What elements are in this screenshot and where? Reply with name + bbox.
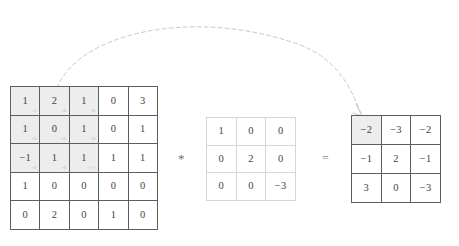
- cell-value: 2: [393, 154, 398, 165]
- output-cell: −1: [352, 145, 382, 174]
- cell-multiplier: ×0: [61, 166, 65, 170]
- cell-value: 1: [81, 124, 86, 135]
- output-cell: −2: [411, 116, 441, 145]
- cell-value: 3: [140, 96, 145, 107]
- input-cell: 1: [129, 116, 158, 145]
- cell-value: −3: [390, 125, 402, 136]
- input-cell: 3: [129, 87, 158, 116]
- cell-multiplier: ×0: [32, 166, 36, 170]
- cell-multiplier: ×1: [32, 109, 36, 113]
- output-cell: −2: [352, 116, 382, 145]
- cell-value: 1: [22, 124, 27, 135]
- cell-value: 2: [52, 210, 57, 221]
- multiply-operator: *: [178, 152, 185, 165]
- input-cell: 1: [11, 173, 40, 202]
- cell-value: 0: [140, 210, 145, 221]
- kernel-cell: 0: [237, 118, 267, 146]
- kernel-cell: 0: [266, 118, 296, 146]
- output-cell: 2: [382, 145, 412, 174]
- output-cell: −3: [411, 174, 441, 203]
- input-cell: 0: [99, 173, 128, 202]
- cell-value: 3: [364, 183, 369, 194]
- cell-value: 1: [140, 153, 145, 164]
- cell-value: 0: [81, 181, 86, 192]
- cell-value: −1: [361, 154, 373, 165]
- output-feature-map: −2 −3 −2 −1 2 −1 3 0 −3: [351, 115, 441, 203]
- kernel-cell: 0: [237, 173, 267, 201]
- cell-value: −3: [420, 183, 432, 194]
- cell-value: 0: [22, 210, 27, 221]
- cell-value: 0: [393, 183, 398, 194]
- cell-value: 1: [22, 96, 27, 107]
- cell-value: 1: [22, 181, 27, 192]
- cell-value: 1: [81, 96, 86, 107]
- cell-value: 0: [52, 124, 57, 135]
- cell-value: 0: [81, 210, 86, 221]
- cell-multiplier: ×0: [91, 137, 95, 141]
- input-cell: 1 ×0: [40, 144, 69, 173]
- cell-value: 0: [278, 126, 283, 137]
- cell-value: −2: [420, 125, 432, 136]
- cell-value: −1: [19, 153, 31, 164]
- cell-value: −2: [361, 125, 373, 136]
- convolution-figure: 1 ×1 2 ×0 1 ×0 0 3 1 ×0 0 ×2 1 ×0 0: [0, 0, 459, 246]
- cell-value: 0: [111, 96, 116, 107]
- output-cell: 0: [382, 174, 412, 203]
- output-cell: −3: [382, 116, 412, 145]
- kernel-cell: 2: [237, 146, 267, 174]
- convolution-kernel: 1 0 0 0 2 0 0 0 −3: [206, 117, 296, 201]
- input-cell: 0 ×2: [40, 116, 69, 145]
- kernel-cell: 0: [266, 146, 296, 174]
- input-cell: 1 ×−3: [70, 144, 99, 173]
- cell-multiplier: ×2: [61, 137, 65, 141]
- input-feature-map: 1 ×1 2 ×0 1 ×0 0 3 1 ×0 0 ×2 1 ×0 0: [10, 86, 158, 230]
- cell-value: 2: [248, 154, 253, 165]
- input-cell: 0: [70, 201, 99, 230]
- cell-value: 1: [81, 153, 86, 164]
- kernel-cell: 0: [207, 146, 237, 174]
- cell-value: 1: [111, 153, 116, 164]
- cell-value: −3: [275, 181, 287, 192]
- cell-value: 1: [111, 210, 116, 221]
- kernel-cell: 1: [207, 118, 237, 146]
- input-cell: 1: [99, 201, 128, 230]
- input-cell: 0: [70, 173, 99, 202]
- cell-value: 0: [278, 154, 283, 165]
- cell-multiplier: ×0: [91, 109, 95, 113]
- kernel-cell: −3: [266, 173, 296, 201]
- cell-value: 0: [140, 181, 145, 192]
- input-cell: 1 ×0: [11, 116, 40, 145]
- cell-multiplier: ×0: [61, 109, 65, 113]
- cell-value: 0: [52, 181, 57, 192]
- input-cell: −1 ×0: [11, 144, 40, 173]
- input-cell: 0: [40, 173, 69, 202]
- input-cell: 1: [129, 144, 158, 173]
- output-cell: 3: [352, 174, 382, 203]
- equals-operator: =: [322, 152, 329, 164]
- cell-value: 0: [219, 154, 224, 165]
- cell-value: 0: [248, 181, 253, 192]
- input-cell: 0: [129, 201, 158, 230]
- cell-multiplier: ×0: [32, 137, 36, 141]
- input-cell: 2: [40, 201, 69, 230]
- cell-value: 0: [219, 181, 224, 192]
- cell-value: 0: [111, 181, 116, 192]
- input-cell: 0: [129, 173, 158, 202]
- output-cell: −1: [411, 145, 441, 174]
- cell-value: 2: [52, 96, 57, 107]
- cell-value: 0: [248, 126, 253, 137]
- input-cell: 0: [99, 116, 128, 145]
- cell-value: 1: [52, 153, 57, 164]
- input-cell: 1 ×0: [70, 87, 99, 116]
- input-cell: 0: [99, 87, 128, 116]
- input-cell: 1: [99, 144, 128, 173]
- input-cell: 0: [11, 201, 40, 230]
- cell-value: 0: [111, 124, 116, 135]
- input-cell: 1 ×1: [11, 87, 40, 116]
- cell-multiplier: ×−3: [88, 166, 95, 170]
- input-cell: 1 ×0: [70, 116, 99, 145]
- cell-value: 1: [219, 126, 224, 137]
- input-cell: 2 ×0: [40, 87, 69, 116]
- cell-value: 1: [140, 124, 145, 135]
- cell-value: −1: [420, 154, 432, 165]
